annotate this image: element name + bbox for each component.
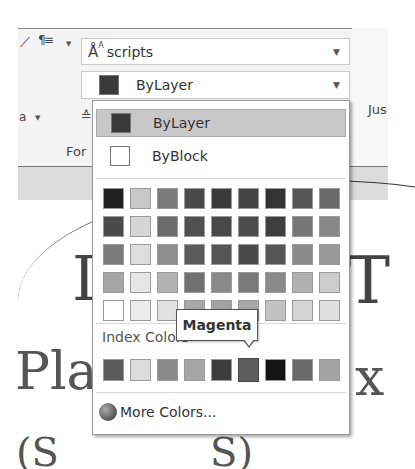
index-color-swatch-yellow[interactable] (130, 359, 151, 381)
text-frame-icon[interactable]: ⟋ (20, 34, 30, 51)
tooltip-label: Magenta (182, 317, 251, 333)
color-option-byblock[interactable]: ByBlock (96, 142, 346, 170)
panel-label-formatting: For (66, 144, 86, 159)
color-swatch[interactable] (103, 216, 124, 237)
index-color-swatch-white-black[interactable] (265, 359, 286, 381)
paragraph-align-icon[interactable]: ¶≡ (38, 33, 52, 47)
color-swatch[interactable] (157, 272, 178, 293)
color-swatch[interactable] (238, 216, 259, 237)
left-control-caret-icon[interactable]: ▼ (35, 114, 40, 122)
color-swatch[interactable] (319, 244, 340, 265)
color-swatch[interactable] (211, 216, 232, 237)
color-swatch[interactable] (265, 216, 286, 237)
tooltip-pointer-fill (244, 339, 254, 346)
separator (96, 178, 346, 179)
color-swatch[interactable] (319, 300, 340, 321)
color-swatch[interactable] (130, 272, 151, 293)
text-style-combo[interactable]: Å A scripts ▼ (81, 38, 350, 65)
chevron-down-icon[interactable]: ▼ (333, 80, 340, 90)
index-color-swatch-cyan[interactable] (184, 359, 205, 381)
color-wheel-icon (99, 403, 117, 421)
color-swatch[interactable] (319, 216, 340, 237)
text-style-icon: Å (88, 43, 98, 61)
color-swatch[interactable] (157, 244, 178, 265)
index-color-swatch-magenta[interactable] (238, 358, 259, 382)
color-swatch[interactable] (103, 272, 124, 293)
color-swatch[interactable] (292, 188, 313, 209)
color-swatch[interactable] (238, 244, 259, 265)
text-style-value: scripts (107, 44, 153, 60)
byblock-swatch (110, 146, 130, 166)
color-option-label: ByBlock (152, 148, 208, 164)
color-swatch[interactable] (292, 272, 313, 293)
color-swatch[interactable] (265, 300, 286, 321)
color-swatch[interactable] (184, 216, 205, 237)
index-color-row (103, 359, 340, 381)
color-swatch[interactable] (319, 188, 340, 209)
color-swatch[interactable] (265, 188, 286, 209)
color-swatch[interactable] (157, 216, 178, 237)
color-swatch[interactable] (130, 300, 151, 321)
color-swatch[interactable] (130, 244, 151, 265)
line-spacing-icon[interactable]: ≙ (81, 108, 92, 123)
color-swatch[interactable] (184, 188, 205, 209)
color-swatch[interactable] (211, 244, 232, 265)
color-swatch[interactable] (211, 272, 232, 293)
standard-color-grid (103, 188, 340, 321)
color-swatch[interactable] (265, 244, 286, 265)
current-color-swatch (99, 75, 119, 95)
drawing-text-caption-right: S) (210, 432, 253, 469)
drawing-text-subtitle-right: x (355, 352, 384, 402)
color-swatch[interactable] (292, 300, 313, 321)
index-color-swatch-gray[interactable] (292, 359, 313, 381)
index-color-swatch-red[interactable] (103, 359, 124, 381)
drawing-text-caption-left: (S (16, 432, 59, 469)
color-swatch[interactable] (184, 244, 205, 265)
text-color-combo[interactable]: ByLayer ▼ (81, 71, 350, 99)
bylayer-swatch (111, 113, 131, 133)
color-swatch[interactable] (211, 188, 232, 209)
more-colors-label: More Colors... (120, 404, 216, 420)
color-swatch[interactable] (157, 300, 178, 321)
drawing-text-title-right: T (346, 250, 390, 312)
color-swatch[interactable] (292, 216, 313, 237)
separator (96, 392, 346, 393)
panel-label-justification: Jus (368, 102, 387, 117)
color-tooltip: Magenta (176, 309, 258, 341)
index-color-swatch-blue[interactable] (211, 359, 232, 381)
color-swatch[interactable] (103, 300, 124, 321)
left-control-fragment[interactable]: a (19, 110, 26, 124)
color-swatch[interactable] (103, 244, 124, 265)
color-swatch[interactable] (319, 272, 340, 293)
color-option-label: ByLayer (153, 115, 210, 131)
index-color-swatch-light-gray[interactable] (319, 359, 340, 381)
index-color-swatch-green[interactable] (157, 359, 178, 381)
color-swatch[interactable] (130, 188, 151, 209)
color-swatch[interactable] (184, 272, 205, 293)
more-colors-button[interactable]: More Colors... (99, 401, 216, 423)
color-swatch[interactable] (103, 188, 124, 209)
color-swatch[interactable] (157, 188, 178, 209)
paragraph-dropdown-caret-icon[interactable]: ▼ (66, 40, 71, 48)
color-swatch[interactable] (238, 272, 259, 293)
drawing-text-subtitle-left: Pla (15, 345, 98, 397)
color-swatch[interactable] (238, 188, 259, 209)
color-swatch[interactable] (130, 216, 151, 237)
text-style-icon-superscript: A (98, 41, 103, 50)
ribbon-next-panel (352, 28, 388, 166)
color-dropdown: ByLayer ByBlock Index Colors More Colors… (92, 100, 350, 435)
color-swatch[interactable] (292, 244, 313, 265)
text-color-value: ByLayer (136, 77, 193, 93)
chevron-down-icon[interactable]: ▼ (333, 47, 340, 57)
color-swatch[interactable] (265, 272, 286, 293)
color-option-bylayer[interactable]: ByLayer (96, 109, 346, 137)
